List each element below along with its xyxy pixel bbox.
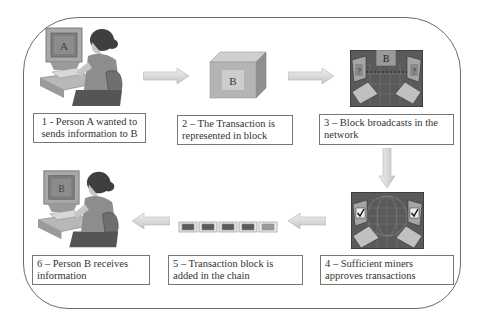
network-approval-icon: [351, 192, 424, 249]
arrow-left-icon: [132, 213, 170, 229]
left-node-question-mark: ?: [357, 67, 361, 76]
person-b-at-computer-icon: B: [38, 168, 128, 250]
step-2-label: 2 – The Transaction is represented in bl…: [177, 115, 293, 145]
step-1-label: 1 - Person A wanted to sends information…: [33, 113, 146, 143]
broadcast-block-letter: B: [383, 53, 390, 64]
block-cube-icon: B: [206, 50, 268, 100]
step-3-label-line1: 3 – Block broadcasts in the: [324, 117, 449, 129]
block-letter-b: B: [229, 75, 236, 87]
step-6-label-line2: information: [37, 270, 145, 282]
step-2-label-line1: 2 – The Transaction is: [182, 118, 288, 130]
step-4-label-line2: approves transactions: [325, 270, 449, 282]
screen-letter-a: A: [60, 40, 68, 52]
right-node-question-mark: ?: [412, 67, 416, 76]
step-5-label-line2: added in the chain: [173, 270, 298, 282]
screen-letter-b: B: [58, 183, 65, 194]
arrow-right-icon: [288, 68, 335, 84]
person-a-at-computer-icon: A: [40, 26, 132, 108]
step-1-label-line1: 1 - Person A wanted to: [38, 116, 141, 128]
arrow-right-icon: [143, 68, 190, 84]
block-chain-icon: [178, 220, 278, 234]
step-5-label-line1: 5 – Transaction block is: [173, 258, 298, 270]
step-6-label: 6 – Person B receives information: [32, 255, 150, 285]
step-3-label-line2: network: [324, 129, 449, 141]
arrow-left-icon: [288, 213, 326, 229]
step-4-label-line1: 4 – Sufficient miners: [325, 258, 449, 270]
step-4-label: 4 – Sufficient miners approves transacti…: [320, 255, 454, 285]
arrow-down-icon: [379, 148, 395, 188]
step-5-label: 5 – Transaction block is added in the ch…: [168, 255, 303, 285]
network-broadcast-icon: B ? ?: [350, 50, 423, 107]
step-1-label-line2: sends information to B: [38, 128, 141, 140]
step-3-label: 3 – Block broadcasts in the network: [319, 114, 454, 145]
step-6-label-line1: 6 – Person B receives: [37, 258, 145, 270]
step-2-label-line2: represented in block: [182, 130, 288, 142]
